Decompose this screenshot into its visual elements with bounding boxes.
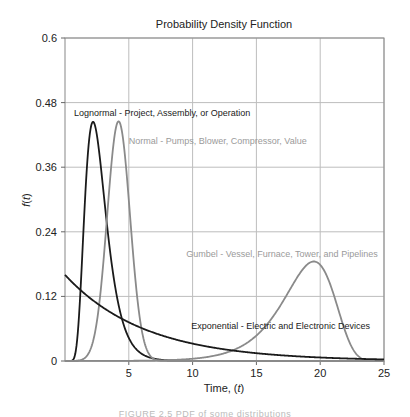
series-annotation: Gumbel - Vessel, Furnace, Tower, and Pip… [186,249,378,259]
y-tick-label: 0 [51,355,57,367]
series-annotation: Exponential - Electric and Electronic De… [191,321,370,331]
y-axis-ticks: 00.120.240.360.480.6 [36,32,65,367]
x-axis-label: Time, (t) [204,382,245,394]
series-annotation: Lognormal - Project, Assembly, or Operat… [74,108,250,118]
figure-caption: FIGURE 2.5 PDF of some distributions [0,409,410,417]
y-tick-label: 0.12 [36,290,57,302]
x-tick-label: 25 [378,367,390,379]
y-tick-label: 0.24 [36,226,57,238]
y-tick-label: 0.36 [36,161,57,173]
series-annotation: Normal - Pumps, Blower, Compressor, Valu… [129,136,307,146]
series-annotations: Lognormal - Project, Assembly, or Operat… [74,108,378,331]
x-tick-label: 15 [250,367,262,379]
x-tick-label: 10 [186,367,198,379]
series-line-3 [65,275,384,360]
x-tick-label: 20 [314,367,326,379]
y-tick-label: 0.6 [42,32,57,44]
y-tick-label: 0.48 [36,97,57,109]
x-tick-label: 5 [126,367,132,379]
gridlines [65,38,384,361]
x-axis-ticks: 510152025 [126,361,390,379]
y-axis-label: f(t) [20,193,32,206]
pdf-chart: Probability Density Function 00.120.240.… [0,0,410,417]
x-axis-label-text: Time, ( [204,382,238,394]
plot-frame [65,38,384,361]
chart-title: Probability Density Function [156,18,292,30]
